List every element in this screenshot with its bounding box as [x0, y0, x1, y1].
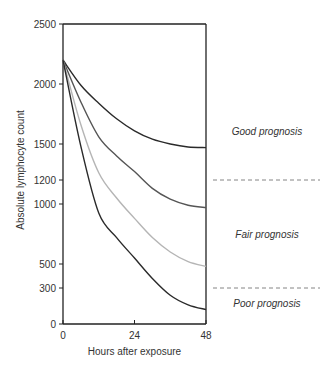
plot-frame: [63, 24, 206, 324]
y-tick-label: 2000: [34, 79, 57, 90]
y-tick-label: 0: [50, 319, 56, 330]
lymphocyte-chart: 030050010001200150020002500 02448 Good p…: [0, 0, 336, 373]
series-line-4: [63, 60, 206, 310]
y-tick-label: 2500: [34, 19, 57, 30]
y-tick-label: 500: [39, 259, 56, 270]
x-tick-label: 24: [129, 330, 141, 341]
y-tick-label: 1200: [34, 175, 57, 186]
x-axis-title: Hours after exposure: [88, 346, 182, 357]
x-axis-ticks: 02448: [60, 320, 212, 341]
y-tick-label: 1000: [34, 199, 57, 210]
x-tick-label: 48: [200, 330, 212, 341]
y-tick-label: 1500: [34, 139, 57, 150]
y-axis-title: Absolute lymphocyte count: [15, 110, 26, 230]
data-series: [63, 60, 206, 310]
zone-label-poor: Poor prognosis: [233, 298, 300, 309]
zone-label-fair: Fair prognosis: [235, 229, 298, 240]
y-tick-label: 300: [39, 283, 56, 294]
y-axis-ticks: 030050010001200150020002500: [34, 19, 63, 330]
x-tick-label: 0: [60, 330, 66, 341]
zone-label-good: Good prognosis: [232, 126, 303, 137]
